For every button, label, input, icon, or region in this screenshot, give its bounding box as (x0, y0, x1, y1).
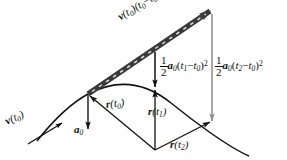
trajectory-vector-diagram: v(t0)(t0−t0) 12a0(t1−t0)2 12a0(t2−t0)2 v… (0, 0, 287, 160)
fraction-one-half: 12 (160, 55, 168, 78)
label-drop-t1: 12a0(t1−t0)2 (160, 55, 208, 78)
label-position-t0: r(t0) (105, 97, 125, 112)
label-position-t1: r(t1) (148, 106, 166, 119)
trajectory-curve-right (88, 84, 249, 156)
label-acceleration: a0 (74, 124, 83, 137)
diagram-canvas (0, 0, 287, 160)
fraction-one-half: 12 (215, 55, 223, 78)
label-drop-t2: 12a0(t2−t0)2 (215, 55, 263, 78)
label-position-t2: r(t2) (170, 139, 188, 152)
velocity-initial-arrow (28, 123, 62, 144)
